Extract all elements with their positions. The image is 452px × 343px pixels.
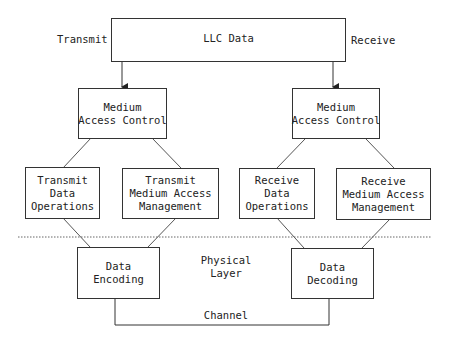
box-text: Management (352, 201, 415, 214)
box-text: Receive (255, 174, 299, 187)
label-text: Physical (196, 254, 256, 267)
box-text: Decoding (307, 274, 358, 287)
box-text: Data (264, 187, 289, 200)
box-text: Medium Access (342, 188, 424, 201)
channel-label: Channel (196, 309, 256, 322)
receive-mac-box: Medium Access Control (292, 88, 380, 139)
box-text: Management (139, 200, 202, 213)
label-text: Layer (196, 267, 256, 280)
data-decoding-box: Data Decoding (291, 248, 374, 299)
box-text: Data (320, 261, 345, 274)
box-text: Access Control (292, 114, 381, 127)
box-text: Receive (361, 175, 405, 188)
box-text: Access Control (78, 114, 167, 127)
receive-label: Receive (351, 34, 395, 47)
box-text: Data (50, 187, 75, 200)
transmit-data-operations-box: Transmit Data Operations (25, 167, 100, 219)
transmit-label: Transmit (57, 33, 108, 46)
box-text: Operations (245, 200, 308, 213)
box-text: Encoding (93, 273, 144, 286)
box-text: Medium Access (129, 187, 211, 200)
receive-data-operations-box: Receive Data Operations (239, 168, 315, 219)
box-text: Medium (317, 101, 355, 114)
transmit-mac-box: Medium Access Control (78, 88, 167, 139)
box-text: Medium (104, 101, 142, 114)
box-text: Transmit (145, 174, 196, 187)
receive-mam-box: Receive Medium Access Management (336, 168, 431, 220)
box-text: Transmit (37, 174, 88, 187)
box-text: Data (106, 260, 131, 273)
transmit-mam-box: Transmit Medium Access Management (122, 168, 219, 219)
physical-layer-label: Physical Layer (196, 254, 256, 280)
llc-data-label: LLC Data (203, 32, 254, 45)
llc-data-box: LLC Data (111, 18, 346, 62)
data-encoding-box: Data Encoding (77, 247, 160, 299)
box-text: Operations (31, 200, 94, 213)
